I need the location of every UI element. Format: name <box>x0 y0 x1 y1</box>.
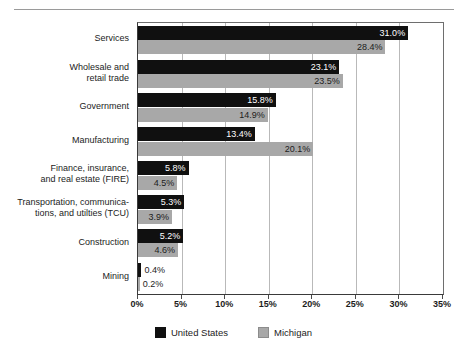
category-label: Government <box>79 101 129 112</box>
bar-value-label: 31.0% <box>380 26 406 40</box>
bar-value-label: 4.6% <box>155 243 176 257</box>
x-axis-tick-label: 25% <box>346 299 364 309</box>
chart-title-clipped-region: Employment by Industry, 2000 <box>0 0 467 8</box>
bar-united-states <box>138 26 408 40</box>
bar-value-label: 28.4% <box>357 40 383 54</box>
category-label: Construction <box>78 237 129 248</box>
bar-value-label: 5.3% <box>161 195 182 209</box>
bar-value-label: 23.5% <box>314 74 340 88</box>
bar-michigan <box>138 40 385 54</box>
category-label: Mining <box>102 271 129 282</box>
x-axis-tick-label: 35% <box>433 299 451 309</box>
x-axis-tick-label: 0% <box>130 299 143 309</box>
category-axis-labels: ServicesWholesale and retail tradeGovern… <box>0 22 133 293</box>
bar-value-label: 5.8% <box>165 161 186 175</box>
legend-label: United States <box>171 327 228 338</box>
x-axis-tick-label: 15% <box>259 299 277 309</box>
bar-value-label: 14.9% <box>239 108 265 122</box>
bar-value-label: 0.4% <box>144 263 165 277</box>
bar-value-label: 3.9% <box>148 210 169 224</box>
category-label: Wholesale and retail trade <box>69 62 129 84</box>
bar-value-label: 23.1% <box>311 60 337 74</box>
bar-michigan <box>138 74 343 88</box>
plot-area: 31.0%23.1%15.8%13.4%5.8%5.3%5.2%0.4%28.4… <box>137 22 444 295</box>
bar-united-states <box>138 60 339 74</box>
category-label: Services <box>94 33 129 44</box>
bar-value-label: 15.8% <box>247 93 273 107</box>
title-divider-rule <box>14 9 454 10</box>
x-axis-tick-label: 5% <box>174 299 187 309</box>
bar-value-label: 0.2% <box>143 277 164 291</box>
category-label: Transportation, communica- tions, and ut… <box>17 197 129 219</box>
black-square-swatch <box>155 327 166 338</box>
chart-legend: United StatesMichigan <box>0 327 467 338</box>
bar-value-label: 5.2% <box>160 229 181 243</box>
bar-michigan <box>138 277 140 291</box>
x-axis-tick-label: 20% <box>302 299 320 309</box>
bar-value-label: 4.5% <box>154 176 175 190</box>
gridline <box>399 23 400 294</box>
employment-by-industry-chart: Employment by Industry, 2000 ServicesWho… <box>0 0 467 355</box>
legend-label: Michigan <box>274 327 312 338</box>
gridline <box>356 23 357 294</box>
x-axis-tick-label: 30% <box>389 299 407 309</box>
category-label: Manufacturing <box>72 135 129 146</box>
legend-entry: Michigan <box>258 327 312 338</box>
category-label: Finance, insurance, and real estate (FIR… <box>40 163 129 185</box>
bar-united-states <box>138 263 141 277</box>
legend-entry: United States <box>155 327 228 338</box>
bar-value-label: 20.1% <box>285 142 311 156</box>
gray-square-swatch <box>258 327 269 338</box>
x-axis: 0%5%10%15%20%25%30%35% <box>137 295 442 311</box>
bar-value-label: 13.4% <box>226 127 252 141</box>
x-axis-tick-label: 10% <box>215 299 233 309</box>
